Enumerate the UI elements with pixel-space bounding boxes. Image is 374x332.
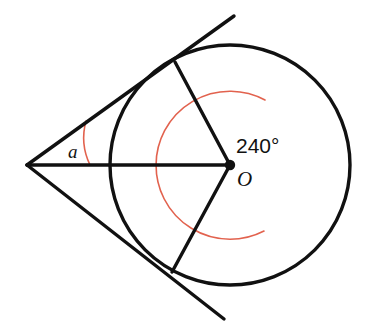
geometry-canvas: 240° O a [0, 0, 374, 332]
geometry-figure: 240° O a [0, 0, 374, 332]
center-label-O: O [237, 167, 252, 191]
angle-measure-label: 240° [236, 134, 279, 157]
vertex-angle-label-a: a [68, 141, 78, 162]
center-point-marker [225, 160, 235, 170]
